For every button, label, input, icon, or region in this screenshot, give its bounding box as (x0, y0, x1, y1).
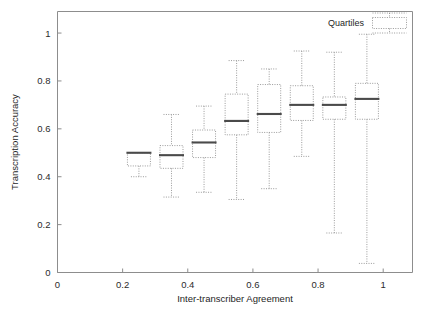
y-tick-label: 0.4 (37, 171, 50, 182)
x-axis-title: Inter-transcriber Agreement (177, 293, 293, 304)
y-tick-label: 0.8 (37, 75, 50, 86)
x-tick-label: 0.8 (311, 279, 324, 290)
x-tick-label: 0.6 (246, 279, 259, 290)
chart-figure: 00.20.40.60.81 00.20.40.60.81 Inter-tran… (0, 0, 428, 313)
y-axis-title: Transcription Accuracy (9, 94, 20, 190)
boxplot-chart: 00.20.40.60.81 00.20.40.60.81 Inter-tran… (0, 0, 428, 313)
x-tick-label: 1 (381, 279, 386, 290)
legend-entry-quartiles-label: Quartiles (328, 18, 365, 28)
x-tick-label: 0.4 (181, 279, 194, 290)
x-tick-label: 0.2 (116, 279, 129, 290)
y-tick-label: 0.2 (37, 219, 50, 230)
y-tick-label: 0 (45, 267, 50, 278)
x-tick-label: 0 (55, 279, 60, 290)
y-tick-label: 1 (45, 28, 50, 39)
y-tick-label: 0.6 (37, 123, 50, 134)
chart-background (0, 0, 428, 313)
